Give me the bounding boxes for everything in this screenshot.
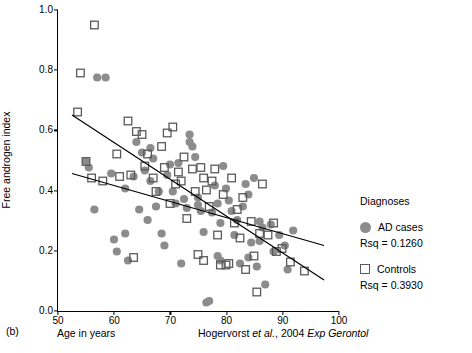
data-point-control bbox=[180, 153, 188, 161]
data-point-ad-case bbox=[166, 160, 174, 168]
scatter-canvas bbox=[58, 10, 339, 311]
data-point-control bbox=[177, 177, 185, 185]
data-point-ad-case bbox=[211, 181, 219, 189]
x-axis-tick-label: 80 bbox=[221, 316, 232, 326]
data-point-ad-case bbox=[141, 166, 149, 174]
data-point-control bbox=[203, 186, 211, 194]
data-point-ad-case bbox=[194, 201, 202, 209]
data-point-ad-case bbox=[244, 190, 252, 198]
data-point-control bbox=[138, 131, 146, 139]
data-point-ad-case bbox=[132, 138, 140, 146]
data-point-ad-case bbox=[205, 297, 213, 305]
x-axis-label: Age in years bbox=[57, 327, 115, 339]
y-axis-tick-label: 0.4 bbox=[27, 186, 53, 196]
data-point-control bbox=[175, 168, 183, 176]
data-point-ad-case bbox=[144, 216, 152, 224]
citation-authors: Hogervorst bbox=[198, 327, 252, 339]
data-point-control bbox=[113, 150, 121, 158]
y-axis-tick-mark bbox=[54, 130, 58, 131]
data-point-control bbox=[197, 164, 205, 172]
data-point-ad-case bbox=[239, 202, 247, 210]
data-point-ad-case bbox=[135, 205, 143, 213]
data-point-ad-case bbox=[121, 229, 129, 237]
data-point-ad-case bbox=[191, 153, 199, 161]
data-point-control bbox=[124, 117, 132, 125]
data-point-control bbox=[183, 215, 191, 223]
x-axis-tick-mark bbox=[338, 311, 339, 315]
filled-circle-icon bbox=[360, 222, 371, 233]
data-point-ad-case bbox=[216, 219, 224, 227]
data-point-ad-case bbox=[177, 259, 185, 267]
data-point-ad-case bbox=[225, 196, 233, 204]
data-point-ad-case bbox=[284, 265, 292, 273]
data-point-ad-case bbox=[149, 154, 157, 162]
x-axis-tick-label: 70 bbox=[165, 316, 176, 326]
data-point-ad-case bbox=[146, 144, 154, 152]
x-axis-tick-label: 50 bbox=[52, 316, 63, 326]
data-point-ad-case bbox=[102, 73, 110, 81]
data-point-control bbox=[228, 174, 236, 182]
data-point-ad-case bbox=[158, 229, 166, 237]
data-point-ad-case bbox=[222, 184, 230, 192]
data-point-control bbox=[74, 108, 82, 116]
data-point-control bbox=[211, 165, 219, 173]
data-point-ad-case bbox=[124, 256, 132, 264]
y-axis-tick-mark bbox=[54, 250, 58, 251]
legend-label-ad-cases: AD cases bbox=[378, 221, 423, 233]
panel-letter: (b) bbox=[6, 325, 19, 337]
plot-area: 0.00.20.40.60.81.05060708090100 bbox=[57, 10, 339, 312]
y-axis-tick-label: 0.0 bbox=[27, 306, 53, 316]
citation-year: , 2004 bbox=[275, 327, 307, 339]
legend-rsq-ad-cases: Rsq = 0.1260 bbox=[360, 237, 468, 249]
legend: Diagnoses AD cases Rsq = 0.1260 Controls… bbox=[360, 195, 468, 304]
data-point-ad-case bbox=[93, 73, 101, 81]
y-axis-tick-label: 0.8 bbox=[27, 65, 53, 75]
y-axis-tick-mark bbox=[54, 9, 58, 10]
data-point-ad-case bbox=[152, 202, 160, 210]
data-point-ad-case bbox=[186, 138, 194, 146]
x-axis-tick-mark bbox=[282, 311, 283, 315]
data-point-ad-case bbox=[261, 280, 269, 288]
data-point-ad-case bbox=[90, 205, 98, 213]
data-point-control bbox=[259, 180, 267, 188]
data-point-ad-case bbox=[160, 241, 168, 249]
data-point-control bbox=[189, 165, 197, 173]
data-point-ad-case bbox=[186, 130, 194, 138]
x-axis-tick-mark bbox=[170, 311, 171, 315]
citation-etal: et al. bbox=[252, 327, 275, 339]
data-point-control bbox=[253, 288, 261, 296]
data-point-control bbox=[200, 174, 208, 182]
data-point-control bbox=[214, 231, 222, 239]
x-axis-tick-label: 60 bbox=[109, 316, 120, 326]
data-point-ad-case bbox=[200, 228, 208, 236]
regression-line-controls bbox=[72, 115, 324, 280]
data-point-ad-case bbox=[110, 235, 118, 243]
data-point-ad-case bbox=[113, 247, 121, 255]
data-point-ad-case bbox=[146, 177, 154, 185]
y-axis-tick-mark bbox=[54, 190, 58, 191]
x-axis-tick-label: 100 bbox=[331, 316, 348, 326]
data-point-ad-case bbox=[219, 162, 227, 170]
data-point-ad-case bbox=[250, 174, 258, 182]
y-axis-tick-label: 1.0 bbox=[27, 5, 53, 15]
data-point-control bbox=[158, 143, 166, 151]
y-axis-tick-label: 0.2 bbox=[27, 246, 53, 256]
data-point-ad-case bbox=[155, 187, 163, 195]
data-point-control bbox=[116, 173, 124, 181]
data-point-control bbox=[133, 128, 141, 136]
citation-journal: Exp Gerontol bbox=[307, 327, 368, 339]
data-point-ad-case bbox=[216, 256, 224, 264]
figure-citation: Hogervorst et al., 2004 Exp Gerontol bbox=[198, 327, 368, 339]
data-point-control bbox=[91, 21, 99, 29]
data-point-control bbox=[77, 69, 85, 77]
data-point-ad-case bbox=[289, 226, 297, 234]
data-point-ad-case bbox=[230, 231, 238, 239]
data-point-ad-case bbox=[236, 259, 244, 267]
data-point-ad-case bbox=[169, 187, 177, 195]
open-square-icon bbox=[360, 264, 370, 274]
x-axis-tick-mark bbox=[114, 311, 115, 315]
legend-entry-ad-cases: AD cases bbox=[360, 220, 468, 234]
data-point-ad-case bbox=[214, 199, 222, 207]
legend-entry-controls: Controls bbox=[360, 262, 468, 276]
data-point-ad-case bbox=[281, 241, 289, 249]
